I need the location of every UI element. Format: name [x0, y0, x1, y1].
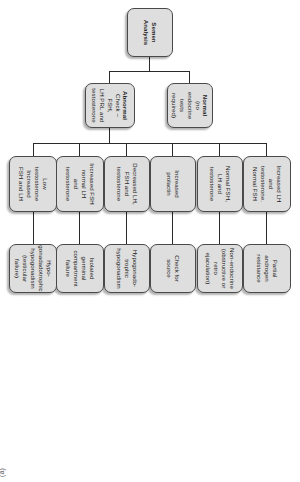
node-abnormal-sub: Check – FSH, LH PRL and testosterone	[91, 87, 122, 124]
connector-level2-abnormal	[109, 71, 110, 83]
connector-level4-link-2	[172, 212, 173, 244]
node-abnormal-head: Abnormal	[122, 91, 130, 120]
connector-level4-link-1	[219, 212, 220, 244]
node-normal-head: Normal	[202, 95, 210, 116]
node-semen-analysis-sub: Analysis	[142, 20, 150, 46]
node-semen-analysis-head: Semen	[150, 22, 158, 42]
node-level4-partial-androgen-resistance[interactable]: Partial androgen resistance	[243, 244, 291, 293]
connector-level3-trunk	[34, 143, 267, 144]
connector-level4-link-4	[79, 212, 80, 244]
flowchart-figure: Semen Analysis Normal (no endocrine test…	[0, 0, 300, 482]
node-level4-hypogonadadotrophic-hypogonadism-testicular-failure[interactable]: Hypo- gonadadotrophic hypogonadism (test…	[9, 244, 57, 293]
panel-label: (a)	[0, 468, 5, 477]
node-level4-check-for-source[interactable]: Check for source	[150, 244, 196, 293]
connector-level3-branch-1	[219, 143, 220, 156]
node-abnormal[interactable]: Abnormal Check – FSH, LH PRL and testost…	[85, 83, 135, 128]
node-level3-increased-lh-testosterone-normal-fsh[interactable]: Increased LH and testosterone. Normal FS…	[243, 156, 291, 212]
connector-abnormal-out	[109, 128, 110, 143]
connector-level3-branch-3	[126, 143, 127, 156]
node-level3-decreased-lh-fsh-testosterone[interactable]: Decreased LH, FSH and testosterone	[104, 156, 150, 212]
connector-level2-trunk	[109, 71, 190, 72]
node-level3-normal-fsh-lh-testosterone[interactable]: Normal FSH, LH and testosterone	[197, 156, 243, 212]
connector-level3-branch-2	[172, 143, 173, 156]
node-level4-isolated-germinal-compartment-failure[interactable]: Isolated germinal compartment failure	[56, 244, 104, 293]
connector-root-out	[149, 57, 150, 71]
node-level3-low-testosterone-increased-fsh-lh[interactable]: Low testosterone Increased FSH and LH	[9, 156, 57, 212]
connector-level4-link-3	[126, 212, 127, 244]
connector-level4-link-0	[266, 212, 267, 244]
connector-level2-normal	[189, 71, 190, 83]
connector-level4-link-5	[33, 212, 34, 244]
node-level4-hypogonadotrophic-hypogonadism[interactable]: Hypogonado- trophic hypogonadism	[104, 244, 150, 293]
connector-level3-branch-5	[33, 143, 34, 156]
connector-level3-branch-0	[266, 143, 267, 156]
node-level4-non-endocrine[interactable]: Non-endocrine (obstructive or retro ejac…	[197, 244, 243, 293]
flowchart-canvas: Semen Analysis Normal (no endocrine test…	[0, 0, 300, 482]
node-normal-sub: (no endocrine tests required)	[171, 87, 202, 124]
node-level3-increased-fsh-normal-lh-testosterone[interactable]: Increased FSH normal LH and testosterone	[56, 156, 104, 212]
node-normal[interactable]: Normal (no endocrine tests required)	[167, 83, 213, 128]
node-level3-increased-prolactin[interactable]: Increased prolactin	[150, 156, 196, 212]
node-semen-analysis[interactable]: Semen Analysis	[127, 8, 173, 57]
connector-level3-branch-4	[79, 143, 80, 156]
